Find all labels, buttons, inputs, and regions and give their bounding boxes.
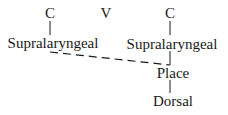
node-place: Place xyxy=(157,66,189,81)
tree-lines xyxy=(0,0,228,115)
node-c-right: C xyxy=(165,6,175,21)
node-dorsal: Dorsal xyxy=(153,94,193,109)
edge-dashed-spreading xyxy=(50,52,170,65)
node-supralaryngeal-left: Supralaryngeal xyxy=(8,36,99,51)
node-v: V xyxy=(101,6,112,21)
node-c-left: C xyxy=(45,6,55,21)
node-supralaryngeal-right: Supralaryngeal xyxy=(127,37,218,52)
